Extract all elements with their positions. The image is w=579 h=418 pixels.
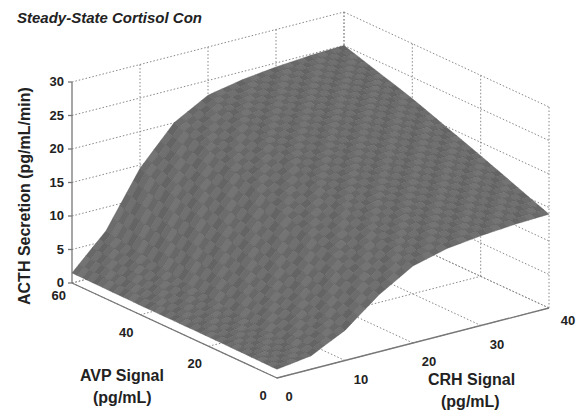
avp-tick-label: 60 <box>52 288 66 303</box>
z-tick-label: 25 <box>50 108 64 123</box>
avp-tick-label: 40 <box>119 325 133 340</box>
avp-tick-label: 20 <box>187 356 201 371</box>
avp-tick-label: 0 <box>259 388 266 403</box>
z-tick-label: 10 <box>50 208 64 223</box>
z-tick-label: 20 <box>50 141 64 156</box>
y-axis-label-line2: (pg/mL) <box>93 389 152 406</box>
x-axis-label-line2: (pg/mL) <box>441 393 500 410</box>
crh-tick-label: 10 <box>354 372 368 387</box>
crh-tick-label: 30 <box>490 337 504 352</box>
z-tick-label: 30 <box>50 74 64 89</box>
crh-tick-label: 20 <box>422 354 436 369</box>
crh-tick-label: 40 <box>561 313 575 328</box>
z-tick-label: 5 <box>57 242 64 257</box>
crh-tick-label: 0 <box>285 389 292 404</box>
z-axis-label: ACTH Secretion (pg/mL/min) <box>16 87 33 305</box>
surface <box>72 46 549 370</box>
y-axis-label-line1: AVP Signal <box>80 367 164 384</box>
z-tick-label: 15 <box>50 175 64 190</box>
surface-chart: Steady-State Cortisol Con 05101520253002… <box>0 0 579 418</box>
chart-title: Steady-State Cortisol Con <box>17 9 202 26</box>
x-axis-label-line1: CRH Signal <box>428 371 515 388</box>
